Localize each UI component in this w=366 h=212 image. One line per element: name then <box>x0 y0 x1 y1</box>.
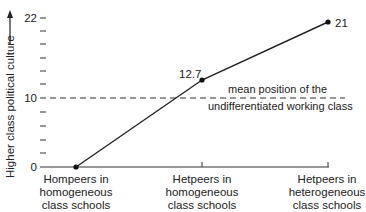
x-category-3: Hetpeers in heterogeneous class schools <box>289 173 366 211</box>
reference-label-line2: undifferentiated working class <box>208 100 353 112</box>
y-tick-10: 10 <box>24 92 37 104</box>
svg-text:Hompeers in: Hompeers in <box>43 173 108 185</box>
y-tick-22: 22 <box>24 12 37 24</box>
point-label-2: 12.7 <box>179 68 201 80</box>
svg-text:Hetpeers in: Hetpeers in <box>298 173 357 185</box>
data-point-3 <box>325 19 330 24</box>
svg-text:Hetpeers in: Hetpeers in <box>173 173 232 185</box>
svg-text:class schools: class schools <box>293 199 362 211</box>
y-tick-0: 0 <box>31 161 37 173</box>
reference-label-line1: mean position of the <box>228 83 327 95</box>
svg-text:homogeneous: homogeneous <box>166 186 239 198</box>
y-axis-title: Higher class political culture <box>4 10 16 178</box>
arrow-up-icon <box>7 10 13 18</box>
x-category-1: Hompeers in homogeneous class schools <box>40 173 113 211</box>
y-axis-label: Higher class political culture <box>4 35 16 178</box>
point-label-3: 21 <box>335 17 348 29</box>
svg-text:homogeneous: homogeneous <box>40 186 113 198</box>
svg-text:heterogeneous: heterogeneous <box>289 186 366 198</box>
svg-text:class schools: class schools <box>42 199 111 211</box>
line-chart: Higher class political culture 22 10 0 m… <box>0 0 366 212</box>
data-point-1 <box>73 164 78 169</box>
svg-text:class schools: class schools <box>168 199 237 211</box>
x-category-2: Hetpeers in homogeneous class schools <box>166 173 239 211</box>
y-axis <box>40 18 46 153</box>
